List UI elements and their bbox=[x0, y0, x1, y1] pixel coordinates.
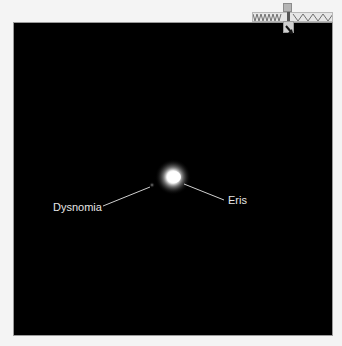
dysnomia-label: Dysnomia bbox=[53, 201, 102, 213]
orientation-widget bbox=[252, 2, 334, 36]
image-overlay bbox=[0, 0, 342, 346]
dysnomia-pointer-line bbox=[103, 187, 150, 206]
eris-pointer-line bbox=[184, 184, 224, 200]
eris-label: Eris bbox=[228, 194, 247, 206]
arrow-down-right-icon bbox=[283, 21, 294, 33]
orientation-tag bbox=[283, 3, 292, 12]
eris-body bbox=[155, 159, 191, 195]
